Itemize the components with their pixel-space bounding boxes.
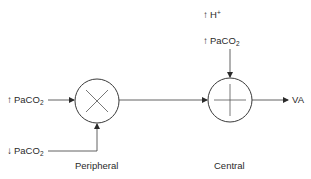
input-high-paco2: ↑PaCO2 — [7, 95, 44, 107]
arrow-down-icon: ↓ — [7, 146, 12, 156]
arrow-up-icon: ↑ — [203, 36, 208, 46]
output-va: VA — [292, 95, 304, 105]
peripheral-node — [75, 79, 119, 123]
input-low-paco2: ↓PaCO2 — [7, 146, 44, 158]
input-central-paco2: ↑PaCO2 — [203, 36, 240, 48]
central-node — [208, 78, 252, 122]
central-label: Central — [214, 161, 245, 171]
arrow-up-icon: ↑ — [7, 95, 12, 105]
diagram-canvas — [0, 0, 311, 179]
arrow-up-icon: ↑ — [203, 10, 208, 20]
peripheral-label: Peripheral — [75, 161, 118, 171]
input-h-ion: ↑H+ — [203, 10, 221, 20]
edge-low-paco2-to-peripheral — [48, 124, 97, 151]
